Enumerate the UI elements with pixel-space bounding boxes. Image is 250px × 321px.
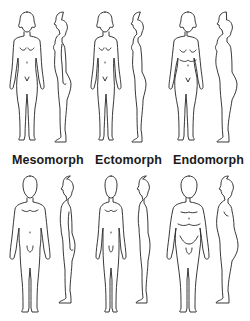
female-endomorph-side-figure <box>210 0 246 148</box>
male-figures-row <box>0 172 250 321</box>
female-endomorph-front-figure <box>166 0 210 148</box>
female-figures-row <box>0 0 250 150</box>
female-ectomorph-side-figure <box>126 0 154 148</box>
male-mesomorph-side-figure <box>54 172 86 320</box>
female-mesomorph-side-figure <box>48 0 78 148</box>
body-type-labels: Mesomorph Ectomorph Endomorph <box>0 150 250 172</box>
female-ectomorph-front-figure <box>86 0 124 148</box>
female-mesomorph-front-figure <box>6 0 48 148</box>
male-mesomorph-front-figure <box>8 172 52 320</box>
label-ectomorph: Ectomorph <box>95 153 162 167</box>
male-ectomorph-front-figure <box>92 172 130 320</box>
male-ectomorph-side-figure <box>132 172 160 320</box>
male-endomorph-front-figure <box>166 172 212 320</box>
label-endomorph: Endomorph <box>173 153 244 167</box>
label-mesomorph: Mesomorph <box>12 153 84 167</box>
male-endomorph-side-figure <box>212 172 248 320</box>
